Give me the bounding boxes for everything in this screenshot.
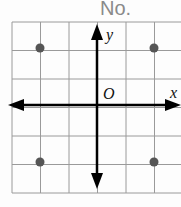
arrow-down-icon xyxy=(91,173,103,189)
coordinate-plane: y x O xyxy=(0,0,181,207)
plotted-point xyxy=(150,44,159,53)
x-axis xyxy=(8,99,181,111)
plotted-point xyxy=(150,158,159,167)
plotted-point xyxy=(36,44,45,53)
x-axis-label: x xyxy=(169,84,177,101)
arrow-up-icon xyxy=(91,24,103,40)
origin-label: O xyxy=(103,85,115,102)
y-axis-label: y xyxy=(104,26,114,44)
plotted-point xyxy=(36,158,45,167)
arrow-left-icon xyxy=(8,99,24,111)
